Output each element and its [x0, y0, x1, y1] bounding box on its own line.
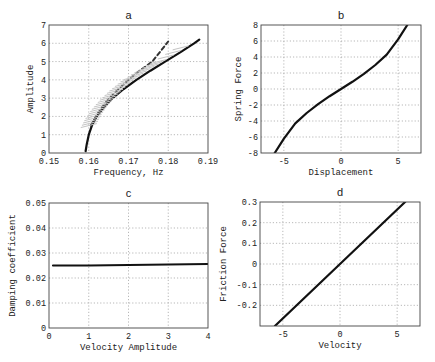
y-tick-label: 6 [41, 39, 46, 49]
y-tick-label: 5 [41, 58, 46, 68]
data-line [53, 264, 208, 266]
x-tick-label: 0.19 [198, 157, 218, 167]
y-tick-label: 0.05 [26, 199, 46, 209]
x-tick-label: -5 [278, 330, 288, 340]
x-axis-label: Velocity [318, 341, 362, 351]
x-tick-label: 5 [396, 157, 401, 167]
y-axis-label: Amplitude [26, 65, 36, 114]
figure: 0.150.160.170.180.1901234567aFrequency, … [0, 0, 435, 362]
y-axis-label: Damping coefficient [8, 214, 18, 317]
y-tick-label: 2 [41, 112, 46, 122]
x-tick-label: 0.18 [158, 157, 178, 167]
subplot-a: 0.150.160.170.180.1901234567aFrequency, … [26, 9, 218, 178]
y-axis-label: Spring Force [234, 57, 244, 122]
subplot-d: -505-0.2-0.100.10.20.3dVelocityFriction … [219, 186, 420, 351]
x-tick-label: 0 [338, 157, 343, 167]
x-tick-label: 0 [337, 330, 342, 340]
x-tick-label: 3 [166, 332, 171, 342]
subplot-c: 0123400.010.020.030.040.05cVelocity Ampl… [8, 187, 211, 353]
subplot-title: c [126, 187, 132, 199]
y-tick-label: 1 [41, 131, 46, 141]
y-tick-label: -6 [248, 133, 258, 143]
x-tick-label: -5 [279, 157, 289, 167]
y-tick-label: 0 [41, 324, 46, 334]
hatch-mark [83, 119, 99, 123]
y-tick-label: 0.01 [26, 299, 46, 309]
x-tick-label: 0.17 [118, 157, 138, 167]
x-axis-label: Frequency, Hz [93, 168, 163, 178]
hatch-mark [82, 121, 98, 125]
subplot-b: -505-8-6-4-202468bDisplacementSpring For… [234, 9, 421, 178]
y-tick-label: 4 [41, 76, 46, 86]
x-tick-label: 0 [46, 332, 51, 342]
x-axis-label: Velocity Amplitude [80, 343, 177, 353]
y-tick-label: -0.2 [237, 301, 257, 311]
x-tick-label: 2 [126, 332, 131, 342]
y-tick-label: 0.1 [242, 239, 257, 249]
x-tick-label: 0.16 [79, 157, 99, 167]
y-tick-label: 6 [253, 37, 258, 47]
y-axis-label: Friction Force [219, 226, 229, 302]
y-tick-label: 0.03 [26, 249, 46, 259]
x-axis-label: Displacement [309, 168, 374, 178]
y-tick-label: 4 [253, 53, 258, 63]
y-tick-label: 7 [41, 21, 46, 31]
plot-area [53, 264, 208, 266]
x-tick-label: 1 [86, 332, 91, 342]
hatch-mark [84, 117, 100, 121]
y-tick-label: 0.02 [26, 274, 46, 284]
y-tick-label: 0.2 [242, 219, 257, 229]
y-tick-label: 8 [253, 21, 258, 31]
hatch-mark [81, 124, 97, 128]
x-tick-label: 4 [205, 332, 210, 342]
subplot-title: b [338, 9, 344, 21]
y-tick-label: 0 [41, 149, 46, 159]
y-tick-label: 0.3 [242, 198, 257, 208]
y-tick-label: 0.04 [26, 224, 46, 234]
y-tick-label: 2 [253, 69, 258, 79]
x-tick-label: 5 [395, 330, 400, 340]
y-tick-label: 0 [253, 85, 258, 95]
plot-area [81, 40, 200, 152]
y-tick-label: -0.1 [237, 281, 257, 291]
subplot-title: a [125, 9, 132, 21]
y-tick-label: -4 [248, 117, 258, 127]
y-tick-label: 3 [41, 94, 46, 104]
y-tick-label: -8 [248, 149, 258, 159]
y-tick-label: -2 [248, 101, 258, 111]
subplot-title: d [337, 186, 343, 198]
y-tick-label: 0 [252, 260, 257, 270]
